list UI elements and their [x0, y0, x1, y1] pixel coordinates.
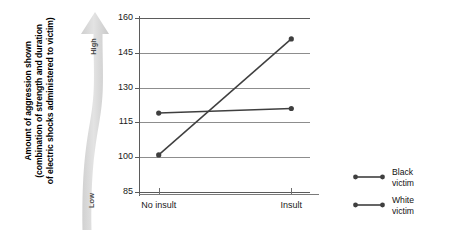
legend-label-white-victim: White victim	[392, 195, 414, 216]
y-tick-label: 130	[107, 82, 133, 92]
y-tick-label: 85	[107, 186, 133, 196]
legend-label-black-victim-line2: victim	[392, 178, 414, 189]
plot-area	[140, 18, 310, 192]
legend-item-black-victim: Black victim	[352, 168, 452, 196]
legend-label-black-victim-line1: Black	[392, 167, 414, 178]
arrow-low-label: Low	[87, 184, 96, 218]
y-tick-mark	[135, 88, 139, 89]
y-axis-label: Amount of aggression shown (combination …	[23, 0, 57, 209]
legend-label-white-victim-line1: White	[392, 195, 414, 206]
x-tick-label: No insult	[114, 200, 204, 210]
y-tick-label: 160	[107, 12, 133, 22]
chart-figure: Amount of aggression shown (combination …	[0, 0, 452, 246]
legend-item-white-victim: White victim	[352, 196, 452, 224]
legend: Black victim White victim	[352, 168, 452, 224]
gridline	[140, 192, 310, 193]
y-axis-label-container: Amount of aggression shown (combination …	[0, 0, 80, 246]
data-point	[156, 111, 161, 116]
y-tick-mark	[135, 157, 139, 158]
arrow-high-label: High	[89, 30, 98, 64]
y-tick-mark	[135, 53, 139, 54]
data-point	[156, 152, 161, 157]
y-tick-label: 145	[107, 47, 133, 57]
y-tick-mark	[135, 18, 139, 19]
y-tick-mark	[135, 192, 139, 193]
legend-label-white-victim-line2: victim	[392, 206, 414, 217]
y-tick-mark	[135, 122, 139, 123]
y-axis-label-line-2: (combination of strength and duration	[34, 0, 45, 209]
x-axis-line	[139, 194, 319, 195]
data-point	[289, 36, 294, 41]
y-axis-label-line-3: of electric shocks administered to victi…	[46, 0, 57, 209]
series-line	[159, 39, 292, 155]
y-axis-label-line-1: Amount of aggression shown	[23, 0, 34, 209]
legend-swatch-black-victim	[352, 173, 386, 181]
x-tick-label: Insult	[246, 200, 336, 210]
y-tick-label: 115	[107, 116, 133, 126]
series-lines	[140, 18, 310, 192]
legend-label-black-victim: Black victim	[392, 167, 414, 188]
legend-swatch-white-victim	[352, 201, 386, 209]
y-tick-label: 100	[107, 151, 133, 161]
series-line	[159, 108, 292, 113]
data-point	[289, 106, 294, 111]
